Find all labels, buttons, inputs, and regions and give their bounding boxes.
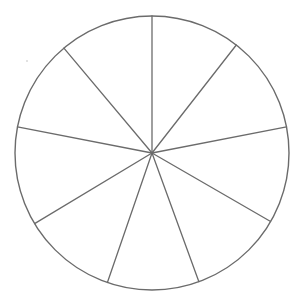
divided-circle-diagram (0, 0, 301, 305)
speck (26, 60, 27, 61)
